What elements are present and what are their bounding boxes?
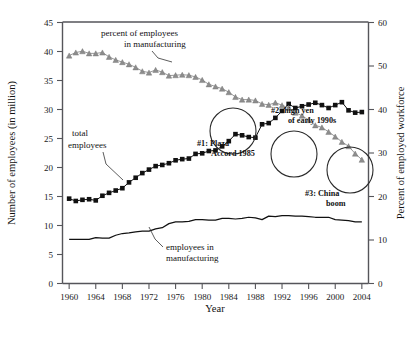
ytick-left-10: 10: [44, 221, 54, 231]
data-point-square: [173, 158, 178, 163]
xtick-label-1972: 1972: [140, 292, 158, 302]
data-point-square: [273, 116, 278, 121]
ytick-left-20: 20: [44, 163, 54, 173]
data-point-square: [193, 152, 198, 157]
data-point-square: [346, 108, 351, 113]
data-point-square: [260, 122, 265, 127]
data-point-square: [153, 164, 158, 169]
data-point-square: [113, 188, 118, 193]
data-point-square: [333, 103, 338, 108]
percent-label-line1: percent of employees: [101, 28, 178, 38]
xtick-label-1992: 1992: [273, 292, 291, 302]
data-point-square: [127, 180, 132, 185]
x-axis-title: Year: [205, 303, 225, 314]
data-point-square: [80, 198, 85, 203]
data-point-square: [147, 167, 152, 172]
data-point-square: [107, 191, 112, 196]
y-axis-title-right: Percent of employed workforce: [395, 86, 406, 219]
chart-svg: 0 5 10 15 20 25 30 35 40 45 0 10 20 30 4…: [0, 0, 415, 337]
chart-figure: 0 5 10 15 20 25 30 35 40 45 0 10 20 30 4…: [0, 0, 415, 337]
xtick-label-1996: 1996: [300, 292, 319, 302]
data-point-square: [180, 157, 185, 162]
ytick-right-50: 50: [378, 61, 388, 71]
ytick-left-0: 0: [49, 279, 54, 289]
data-point-square: [67, 196, 72, 201]
xtick-label-1980: 1980: [193, 292, 212, 302]
ytick-right-10: 10: [378, 235, 388, 245]
ytick-left-35: 35: [44, 76, 54, 86]
data-point-square: [266, 121, 271, 126]
annot-china-line2: boom: [326, 199, 346, 208]
annot-china-line1: #3: China: [305, 189, 339, 198]
xtick-label-2004: 2004: [353, 292, 372, 302]
annot-yen-line2: of early 1990s: [288, 116, 336, 125]
data-point-square: [93, 198, 98, 203]
ytick-left-30: 30: [44, 105, 54, 115]
ytick-right-0: 0: [378, 279, 383, 289]
data-point-square: [326, 106, 331, 111]
annot-plaza-line1: #1: Plaza: [197, 139, 229, 148]
total-label-line1: total: [72, 128, 88, 138]
data-point-square: [120, 186, 125, 191]
mfg-label-line1: employees in: [166, 242, 214, 252]
data-point-square: [340, 100, 345, 105]
annot-yen-line1: #2: high yen: [271, 106, 314, 115]
data-point-square: [133, 175, 138, 180]
xtick-label-2000: 2000: [326, 292, 345, 302]
data-point-square: [313, 100, 318, 105]
ytick-left-5: 5: [49, 250, 54, 260]
y-axis-title-left: Number of employees (in million): [6, 80, 18, 225]
xtick-label-1976: 1976: [167, 292, 186, 302]
ytick-right-20: 20: [378, 192, 388, 202]
data-point-square: [100, 193, 105, 198]
data-point-square: [140, 171, 145, 176]
data-point-square: [187, 156, 192, 161]
mfg-label-line2: manufacturing: [166, 253, 219, 263]
data-point-square: [160, 163, 165, 168]
ytick-left-25: 25: [44, 134, 54, 144]
total-label-line2: employees: [68, 140, 107, 150]
data-point-square: [167, 161, 172, 166]
ytick-left-15: 15: [44, 192, 54, 202]
data-point-square: [87, 197, 92, 202]
data-point-square: [200, 151, 205, 156]
ytick-left-40: 40: [44, 47, 54, 57]
xtick-label-1964: 1964: [87, 292, 106, 302]
ytick-right-60: 60: [378, 18, 388, 28]
xtick-label-1984: 1984: [220, 292, 239, 302]
data-point-square: [74, 199, 79, 204]
percent-label-line2: in manufacturing: [124, 39, 186, 49]
data-point-square: [233, 132, 238, 137]
data-point-square: [240, 133, 245, 138]
xtick-label-1988: 1988: [246, 292, 265, 302]
data-point-square: [353, 110, 358, 115]
data-point-square: [360, 110, 365, 115]
data-point-square: [320, 103, 325, 108]
ytick-right-30: 30: [378, 148, 388, 158]
xtick-label-1960: 1960: [60, 292, 79, 302]
xtick-label-1968: 1968: [113, 292, 132, 302]
annot-plaza-line2: Accord 1985: [211, 149, 255, 158]
data-point-square: [246, 135, 251, 140]
ytick-left-45: 45: [44, 18, 54, 28]
ytick-right-40: 40: [378, 105, 388, 115]
